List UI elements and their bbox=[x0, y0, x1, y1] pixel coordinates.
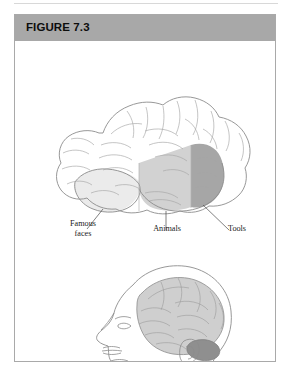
eye bbox=[118, 323, 131, 329]
label-tools: Tools bbox=[215, 224, 259, 234]
label-animals: Animals bbox=[143, 224, 191, 234]
figure-body: Famous faces Animals Tools bbox=[15, 41, 275, 361]
facial-features bbox=[101, 313, 131, 361]
tools-region-shading bbox=[191, 144, 224, 208]
mouth-line bbox=[102, 350, 122, 351]
lateral-brain-diagram bbox=[57, 97, 251, 230]
label-famous-faces: Famous faces bbox=[59, 219, 107, 238]
page-top-rule bbox=[14, 3, 278, 4]
figure-illustration bbox=[15, 41, 275, 361]
head-profile-with-brain bbox=[97, 266, 232, 361]
lower-lip bbox=[103, 353, 121, 355]
figure-card: FIGURE 7.3 bbox=[14, 14, 276, 362]
eyebrow bbox=[115, 317, 131, 319]
chin-crease bbox=[111, 360, 128, 362]
nose-bridge bbox=[101, 313, 114, 330]
figure-screenshot: FIGURE 7.3 bbox=[0, 0, 293, 377]
upper-lip bbox=[103, 347, 120, 349]
figure-title: FIGURE 7.3 bbox=[26, 21, 90, 33]
